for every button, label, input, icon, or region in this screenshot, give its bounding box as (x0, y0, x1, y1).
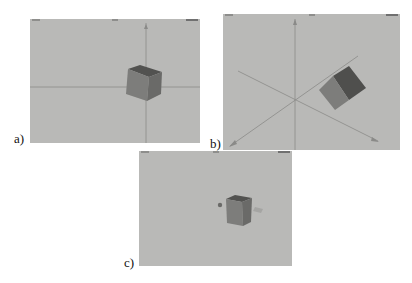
y-axis-arrow-icon (144, 24, 148, 29)
scene-a (30, 19, 200, 143)
panel-label-a: a) (14, 132, 24, 145)
x-axis-arrow-icon (371, 137, 379, 142)
scene-b (223, 14, 400, 150)
cube-front (226, 199, 243, 226)
cube-side (242, 198, 252, 226)
y-axis-arrow-icon (293, 19, 297, 25)
scene-c (139, 151, 292, 266)
panel-b (223, 14, 400, 150)
panel-label-c: c) (124, 256, 134, 269)
panel-a (30, 19, 200, 143)
panel-c (139, 151, 292, 266)
marker-dot (218, 203, 222, 207)
panel-label-b: b) (210, 137, 221, 150)
z-axis-arrow-icon (229, 140, 237, 147)
marker-arrow (253, 207, 263, 213)
